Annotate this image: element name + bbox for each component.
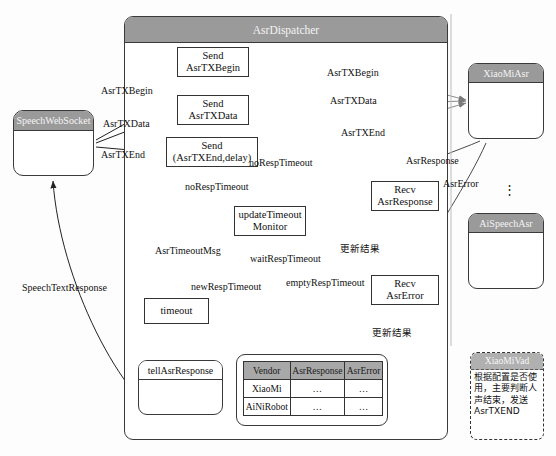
diagram-canvas: AsrDispatcher SpeechWebSocket XiaoMiAsr … xyxy=(0,0,556,456)
table-row: XiaoMi … … xyxy=(244,380,383,398)
edge-label-ws-asr-tx-end: AsrTXEnd xyxy=(101,149,145,160)
aispeech-asr-title: AiSpeechAsr xyxy=(469,214,543,233)
node-timeout: timeout xyxy=(144,298,209,324)
vendor-table-header-row: Vendor AsrResponse AsrError xyxy=(244,362,383,380)
vendor-table-col-vendor: Vendor xyxy=(244,362,291,380)
node-send-asr-tx-end-delay: Send (AsrTXEnd,delay) xyxy=(166,137,258,167)
vertical-ellipsis-icon: ⋮ xyxy=(503,188,513,192)
page-header-strip xyxy=(0,0,556,8)
edge-label-ws-asr-tx-begin: AsrTXBegin xyxy=(101,85,153,96)
edge-label-out-asr-tx-end: AsrTXEnd xyxy=(341,127,385,138)
edge-label-asr-response: AsrResponse xyxy=(406,155,459,166)
edge-label-asr-error: AsrError xyxy=(443,178,479,189)
node-update-timeout-monitor-line2: Monitor xyxy=(238,221,301,233)
edge-label-asr-timeout-msg: AsrTimeoutMsg xyxy=(155,245,221,256)
vendor-table: Vendor AsrResponse AsrError XiaoMi … … A… xyxy=(243,361,383,416)
node-update-timeout-monitor: updateTimeout Monitor xyxy=(234,206,306,236)
node-timeout-label: timeout xyxy=(160,305,192,317)
vendor-cell-name: AiNiRobot xyxy=(244,398,291,416)
node-send-asr-tx-data-line2: AsrTXData xyxy=(189,110,238,122)
asr-dispatcher-title: AsrDispatcher xyxy=(125,17,447,43)
vendor-cell-asr-error: … xyxy=(345,380,383,398)
xiaomi-vad-title: XiaoMiVad xyxy=(471,353,543,370)
edge-label-out-asr-tx-begin: AsrTXBegin xyxy=(327,67,379,78)
node-send-asr-tx-data: Send AsrTXData xyxy=(177,95,249,125)
node-recv-asr-error-line1: Recv xyxy=(386,278,423,290)
node-recv-asr-response-line2: AsrResponse xyxy=(377,196,432,208)
node-recv-asr-error-line2: AsrError xyxy=(386,290,423,302)
edge-label-new-resp-timeout: newRespTimeout xyxy=(191,281,261,292)
node-send-asr-tx-begin: Send AsrTXBegin xyxy=(177,47,249,77)
edge-label-speech-text-response: SpeechTextResponse xyxy=(22,282,107,293)
node-recv-asr-response: Recv AsrResponse xyxy=(371,181,439,211)
tell-asr-response-title: tellAsrResponse xyxy=(139,361,222,380)
node-send-asr-tx-data-line1: Send xyxy=(189,98,238,110)
edge-label-ws-asr-tx-data: AsrTXData xyxy=(103,118,150,129)
xiaomi-asr-container: XiaoMiAsr xyxy=(468,63,544,139)
vendor-cell-name: XiaoMi xyxy=(244,380,291,398)
node-send-asr-tx-end-line1: Send xyxy=(173,140,251,152)
speech-websocket-title: SpeechWebSocket xyxy=(14,111,93,131)
edge-label-out-asr-tx-data: AsrTXData xyxy=(330,95,377,106)
speech-websocket-container: SpeechWebSocket xyxy=(13,110,94,176)
xiaomi-vad-note-text: 根据配置是否使用，主要判断人声结束，发送AsrTXEND xyxy=(471,370,543,417)
tell-asr-response-container: tellAsrResponse xyxy=(138,360,223,415)
xiaomi-asr-title: XiaoMiAsr xyxy=(469,64,543,83)
edge-label-update-result-1: 更新结果 xyxy=(340,241,380,255)
node-recv-asr-response-line1: Recv xyxy=(377,184,432,196)
table-row: AiNiRobot … … xyxy=(244,398,383,416)
xiaomi-vad-note-container: XiaoMiVad 根据配置是否使用，主要判断人声结束，发送AsrTXEND xyxy=(470,352,544,440)
node-recv-asr-error: Recv AsrError xyxy=(371,275,439,305)
node-update-timeout-monitor-line1: updateTimeout xyxy=(238,209,301,221)
vendor-table-col-asr-response: AsrResponse xyxy=(290,362,345,380)
edge-label-update-result-2: 更新结果 xyxy=(372,325,412,339)
node-send-asr-tx-begin-line2: AsrTXBegin xyxy=(186,62,240,74)
edge-label-empty-resp-timeout: emptyRespTimeout xyxy=(286,277,365,288)
aispeech-asr-container: AiSpeechAsr xyxy=(468,213,544,289)
vendor-table-container: Vendor AsrResponse AsrError XiaoMi … … A… xyxy=(236,354,388,426)
edge-label-no-resp-timeout-b: noRespTimeout xyxy=(185,181,249,192)
vendor-cell-asr-error: … xyxy=(345,398,383,416)
node-send-asr-tx-begin-line1: Send xyxy=(186,50,240,62)
vendor-cell-asr-response: … xyxy=(290,398,345,416)
edge-label-no-resp-timeout-a: noRespTimeout xyxy=(249,157,313,168)
edge-label-wait-resp-timeout: waitRespTimeout xyxy=(250,253,321,264)
vendor-cell-asr-response: … xyxy=(290,380,345,398)
vendor-table-col-asr-error: AsrError xyxy=(345,362,383,380)
node-send-asr-tx-end-line2: (AsrTXEnd,delay) xyxy=(173,152,251,164)
